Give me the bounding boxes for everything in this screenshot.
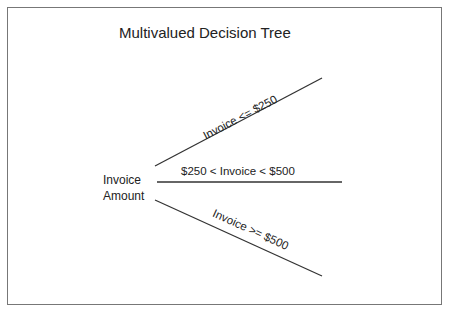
- branch-edge-lower: [155, 200, 322, 276]
- tree-edges: [0, 0, 451, 314]
- root-node-label: Invoice Amount: [103, 172, 144, 204]
- branch-label-middle: $250 < Invoice < $500: [181, 165, 295, 177]
- root-label-line1: Invoice: [103, 172, 144, 188]
- root-label-line2: Amount: [103, 188, 144, 204]
